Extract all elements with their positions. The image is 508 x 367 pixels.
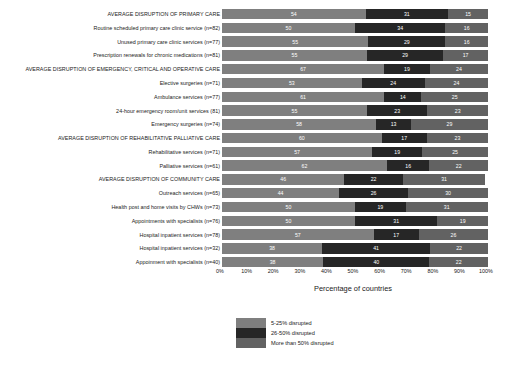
chart-row: Health post and home visits by CHWs (n=7… [0,201,508,213]
chart-row: Rehabilitative services (n=71)571925 [0,146,508,158]
bar-segment-3: 15 [448,9,488,19]
chart-row: 24-hour emergency room/unit services (81… [0,104,508,116]
bar-segment-1: 38 [222,243,322,253]
bar-segment-3: 17 [443,50,488,60]
bar-segment-1: 55 [222,105,367,115]
bar-segment-2: 26 [339,188,408,198]
bar-segment-3: 16 [445,36,488,46]
bar-segment-1: 38 [222,257,323,267]
bar-segment-3: 22 [429,160,488,170]
bar-segment-3: 22 [429,257,488,267]
bar-segment-2: 29 [368,36,445,46]
bar-segment-3: 23 [427,133,488,143]
row-label: AVERAGE DISRUPTION OF COMMUNITY CARE [0,176,222,182]
bar-segment-3: 31 [406,202,488,212]
bar-segment-1: 61 [222,92,384,102]
stacked-bar: 503119 [222,216,488,226]
bar-segment-3: 25 [421,92,488,102]
row-label: Palliative services (n=61) [0,163,222,169]
row-label: Prescription renewals for chronic medica… [0,52,222,58]
chart-row: Appoinment with specialists (n=40)384022 [0,256,508,268]
chart-row: Elective surgeries (n=71)532424 [0,77,508,89]
legend-swatch [236,328,266,337]
bar-segment-1: 54 [222,9,366,19]
row-label: Health post and home visits by CHWs (n=7… [0,204,222,210]
legend-label: 5-25% disrupted [271,320,312,326]
bar-segment-2: 19 [355,202,406,212]
bar-segment-2: 17 [382,133,427,143]
row-label: AVERAGE DISRUPTION OF EMERGENCY, CRITICA… [0,66,222,72]
chart-row: Hospital inpatient services (n=78)571726 [0,229,508,241]
row-label: Rehabilitative services (n=71) [0,149,222,155]
stacked-bar: 532424 [222,78,488,88]
bar-segment-1: 55 [222,36,368,46]
bar-segment-1: 57 [222,147,372,157]
chart-row: Hospital inpatient services (n=32)384122 [0,242,508,254]
bar-segment-2: 17 [374,229,419,239]
row-label: Routine scheduled primary care clinic se… [0,25,222,31]
plot-area: AVERAGE DISRUPTION OF PRIMARY CARE543115… [0,8,508,270]
x-tick-label: 0% [216,268,224,274]
bar-segment-1: 53 [222,78,362,88]
bar-segment-2: 34 [355,23,445,33]
stacked-bar-chart: AVERAGE DISRUPTION OF PRIMARY CARE543115… [0,0,508,367]
x-tick-label: 100% [479,268,493,274]
chart-row: AVERAGE DISRUPTION OF COMMUNITY CARE4622… [0,173,508,185]
x-axis-title: Percentage of countries [220,284,486,293]
x-tick-label: 20% [268,268,279,274]
chart-row: AVERAGE DISRUPTION OF EMERGENCY, CRITICA… [0,63,508,75]
row-label: AVERAGE DISRUPTION OF REHABILITATIVE PAL… [0,135,222,141]
bar-segment-1: 50 [222,202,355,212]
bar-segment-3: 24 [425,78,488,88]
stacked-bar: 581329 [222,119,488,129]
bar-segment-1: 50 [222,23,355,33]
bar-segment-1: 60 [222,133,382,143]
bar-segment-2: 40 [323,257,429,267]
bar-segment-1: 55 [222,50,367,60]
stacked-bar: 501931 [222,202,488,212]
x-tick-label: 70% [401,268,412,274]
x-tick-label: 10% [241,268,252,274]
bar-segment-2: 14 [384,92,421,102]
chart-row: AVERAGE DISRUPTION OF REHABILITATIVE PAL… [0,132,508,144]
row-label: Hospital inpatient services (n=78) [0,232,222,238]
stacked-bar: 552916 [222,36,488,46]
bar-segment-3: 24 [430,64,488,74]
bar-segment-1: 67 [222,64,384,74]
row-label: AVERAGE DISRUPTION OF PRIMARY CARE [0,11,222,17]
bar-segment-3: 23 [427,105,488,115]
legend-swatch [236,318,266,327]
bar-segment-1: 46 [222,174,344,184]
chart-legend: 5-25% disrupted26-50% disruptedMore than… [236,318,334,348]
bar-segment-1: 62 [222,160,387,170]
x-tick-label: 90% [454,268,465,274]
x-axis: 0%10%20%30%40%50%60%70%80%90%100% [220,268,486,278]
row-label: Outreach services (n=65) [0,190,222,196]
row-label: Hospital inpatient services (n=32) [0,245,222,251]
legend-label: More than 50% disrupted [271,340,334,346]
stacked-bar: 384022 [222,257,488,267]
bar-segment-2: 31 [366,9,448,19]
stacked-bar: 462231 [222,174,488,184]
bar-segment-3: 30 [408,188,488,198]
stacked-bar: 671924 [222,64,488,74]
legend-item: More than 50% disrupted [236,338,334,348]
x-tick-label: 40% [321,268,332,274]
legend-label: 26-50% disrupted [271,330,315,336]
bar-segment-2: 13 [376,119,411,129]
bar-segment-2: 24 [362,78,425,88]
bar-segment-1: 58 [222,119,376,129]
bar-segment-2: 41 [322,243,430,253]
stacked-bar: 384122 [222,243,488,253]
bar-segment-2: 19 [384,64,430,74]
chart-row: Unused primary care clinic services (n=7… [0,36,508,48]
x-tick-label: 50% [348,268,359,274]
bar-segment-2: 31 [355,216,437,226]
chart-row: Routine scheduled primary care clinic se… [0,22,508,34]
stacked-bar: 571925 [222,147,488,157]
bar-segment-2: 22 [344,174,403,184]
chart-row: Prescription renewals for chronic medica… [0,49,508,61]
bar-segment-2: 19 [372,147,422,157]
chart-row: Palliative services (n=61)621622 [0,160,508,172]
chart-row: AVERAGE DISRUPTION OF PRIMARY CARE543115 [0,8,508,20]
